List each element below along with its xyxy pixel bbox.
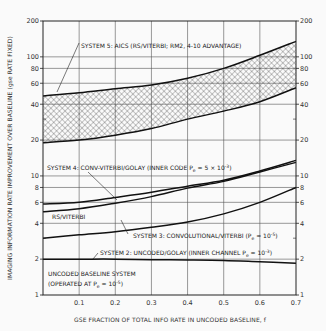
- y-tick-label-left: 1: [35, 291, 39, 299]
- y-tick-label-left: 100: [27, 53, 39, 61]
- annotation-base1: UNCODED BASELINE SYSTEM: [48, 270, 136, 277]
- x-tick-label: 0.6: [255, 299, 265, 307]
- y-tick-label-right: 40: [300, 101, 308, 109]
- y-tick-label-right: 2: [300, 255, 304, 263]
- annotation-base2: (OPERATED AT Pe = 10-5): [48, 280, 123, 289]
- y-tick-label-right: 60: [300, 80, 308, 88]
- y-tick-label-right: 4: [300, 220, 304, 228]
- y-tick-label-left: 6: [35, 199, 39, 207]
- x-tick-label: 0.7: [291, 299, 301, 307]
- y-tick-label-left: 80: [31, 65, 39, 73]
- y-tick-label-left: 2: [35, 255, 39, 263]
- y-tick-label-left: 40: [31, 101, 39, 109]
- series-line: [43, 259, 296, 263]
- y-tick-label-right: 8: [300, 184, 304, 192]
- x-tick-label: 0.5: [219, 299, 229, 307]
- leader-line: [93, 253, 98, 259]
- y-tick-label-right: 200: [300, 17, 312, 25]
- y-tick-label-right: 6: [300, 199, 304, 207]
- y-tick-label-right: 80: [300, 65, 308, 73]
- y-tick-label-right: 10: [300, 172, 308, 180]
- y-tick-label-left: 200: [27, 17, 39, 25]
- y-tick-label-left: 60: [31, 80, 39, 88]
- x-axis-title: GSE FRACTION OF TOTAL INFO RATE IN UNCOD…: [74, 316, 267, 323]
- y-tick-label-right: 20: [300, 136, 308, 144]
- y-tick-label-left: 20: [31, 136, 39, 144]
- x-tick-label: 0.4: [182, 299, 192, 307]
- annotation-sys4_a: SYSTEM 4: CONV-VITERBI/GOLAY (INNER CODE…: [47, 164, 232, 173]
- x-tick-label: 0.1: [74, 299, 84, 307]
- y-tick-label-right: 100: [300, 53, 312, 61]
- y-tick-label-left: 10: [31, 172, 39, 180]
- chart: 1122446688101020204040606080801001002002…: [0, 0, 326, 331]
- y-tick-label-left: 8: [35, 184, 39, 192]
- x-tick-label: 0.3: [146, 299, 156, 307]
- annotation-sys2: SYSTEM 2: UNCODED/GOLAY (INNER CHANNEL P…: [100, 249, 272, 258]
- y-tick-label-left: 4: [35, 220, 39, 228]
- annotation-rsv: RS/VITERBI: [52, 213, 86, 220]
- x-tick-label: 0.2: [110, 299, 120, 307]
- leader-line: [57, 43, 79, 92]
- annotation-sys5: SYSTEM 5: AICS (RS/VITERBI; RM2, 4-10 AD…: [81, 42, 241, 49]
- annotation-sys3: SYSTEM 3: CONVOLUTIONAL/VITERBI (Pe = 10…: [133, 232, 278, 241]
- y-axis-title: IMAGING INFORMATION RATE IMPROVEMENT OVE…: [6, 36, 14, 280]
- leader-line: [121, 220, 128, 234]
